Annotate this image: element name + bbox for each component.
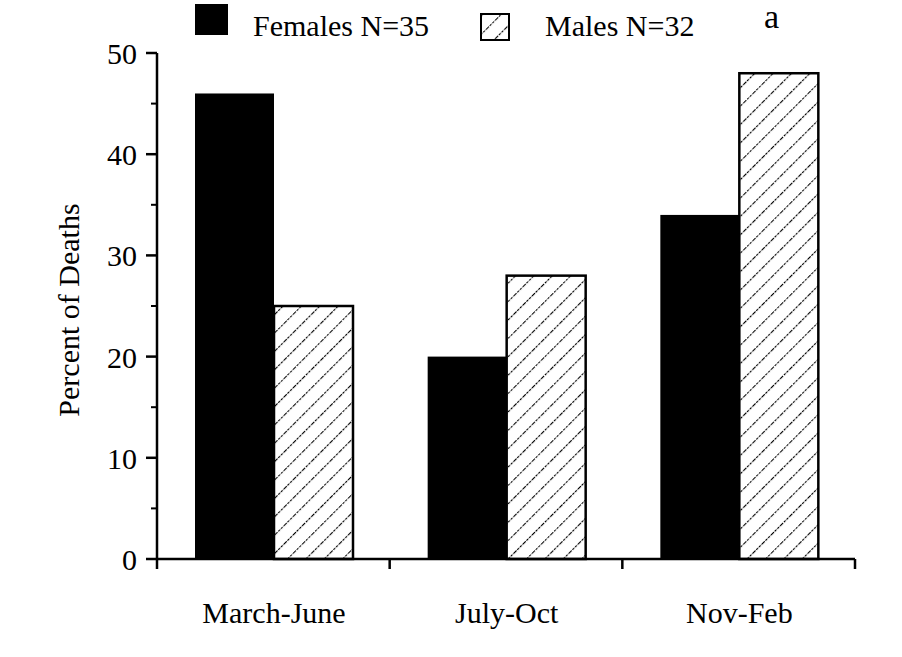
bar-females-nov-feb (660, 215, 739, 559)
y-tick-label: 50 (107, 37, 137, 70)
legend-swatch-females (195, 4, 228, 35)
y-tick-label: 10 (107, 442, 137, 475)
y-tick-label: 30 (107, 239, 137, 272)
bar-females-march-june (195, 93, 274, 559)
y-tick-label: 0 (122, 543, 137, 576)
y-axis: 01020304050 (107, 37, 157, 576)
x-tick-label: July-Oct (455, 596, 559, 629)
x-tick-label: Nov-Feb (686, 596, 793, 629)
y-axis-label: Percent of Deaths (52, 203, 85, 416)
panel-label: a (764, 0, 779, 35)
bar-chart: Females N=35 Males N=32 a Percent of Dea… (0, 0, 902, 657)
bar-males-july-oct (507, 276, 586, 559)
legend-swatch-males (481, 14, 509, 40)
bar-males-nov-feb (739, 73, 818, 559)
x-axis: March-JuneJuly-OctNov-Feb (156, 559, 855, 629)
x-tick-label: March-June (202, 596, 345, 629)
legend: Females N=35 Males N=32 (195, 4, 694, 42)
y-tick-label: 40 (107, 138, 137, 171)
y-tick-label: 20 (107, 341, 137, 374)
bar-females-july-oct (428, 357, 507, 559)
bars (195, 73, 818, 559)
legend-label-females: Females N=35 (253, 9, 429, 42)
legend-label-males: Males N=32 (545, 9, 694, 42)
bar-males-march-june (274, 306, 353, 559)
